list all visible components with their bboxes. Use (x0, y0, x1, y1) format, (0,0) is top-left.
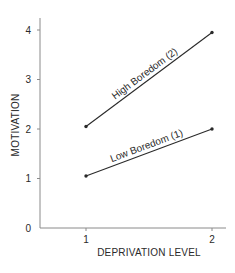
y-tick-label: 3 (25, 74, 31, 85)
y-tick: 0 (25, 223, 31, 234)
x-tick-label: 1 (83, 234, 89, 245)
y-axis-ticks: 01234 (25, 25, 40, 234)
x-tick: 2 (209, 228, 215, 245)
y-tick-label: 1 (25, 173, 31, 184)
series-line (86, 129, 212, 176)
series-line (86, 32, 212, 126)
x-tick: 1 (83, 228, 89, 245)
axes (40, 18, 226, 228)
x-axis-ticks: 12 (83, 228, 215, 245)
series-label: Low Boredom (1) (109, 127, 185, 164)
data-point (210, 31, 213, 34)
data-point (84, 174, 87, 177)
y-tick-label: 4 (25, 25, 31, 36)
series-layer: High Boredom (2)Low Boredom (1) (84, 31, 213, 178)
interaction-line-chart: 01234 12 High Boredom (2)Low Boredom (1)… (0, 0, 235, 273)
series-low-boredom: Low Boredom (1) (84, 127, 213, 178)
series-high-boredom: High Boredom (2) (84, 31, 213, 128)
x-axis-title: DEPRIVATION LEVEL (97, 247, 201, 258)
y-tick-label: 2 (25, 124, 31, 135)
y-tick: 3 (25, 74, 40, 85)
data-point (84, 125, 87, 128)
y-tick: 1 (25, 173, 40, 184)
y-axis-title: MOTIVATION (10, 94, 21, 157)
x-tick-label: 2 (209, 234, 215, 245)
y-tick-label: 0 (25, 223, 31, 234)
series-label: High Boredom (2) (110, 45, 180, 101)
y-tick: 2 (25, 124, 40, 135)
data-point (210, 127, 213, 130)
y-tick: 4 (25, 25, 40, 36)
